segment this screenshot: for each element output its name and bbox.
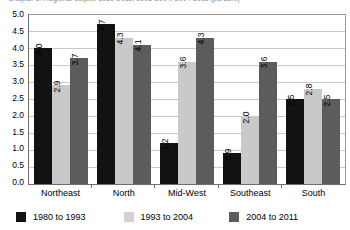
bar-group-northeast: 4.0 2.9 3.7: [29, 14, 92, 184]
legend-label: 1993 to 2004: [141, 212, 194, 222]
y-tick-label: 0.5: [12, 161, 24, 170]
bar-value-label: 2.9: [52, 80, 61, 92]
bar-group-south: 2.5 2.8 2.5: [282, 14, 345, 184]
chart-legend: 1980 to 1993 1993 to 2004 2004 to 2011: [0, 207, 350, 227]
bar-value-label: 3.7: [70, 53, 79, 65]
legend-item-1980-to-1993[interactable]: 1980 to 1993: [16, 212, 86, 222]
bar-value-label: 3.6: [179, 57, 188, 69]
bar-group-mid-west: 1.2 3.6 4.3: [155, 14, 218, 184]
y-tick-label: 3.5: [12, 60, 24, 69]
bar-chart: Chapter 2. Regional output: 1980-2011, 1…: [0, 0, 350, 230]
y-tick-label: 4.5: [12, 27, 24, 36]
bar[interactable]: 4.1: [133, 45, 151, 184]
x-axis-label-north: North: [92, 188, 155, 198]
y-tick-label: 0.0: [12, 178, 24, 187]
bar-group-southeast: 0.9 2.0 3.6: [219, 14, 282, 184]
bar[interactable]: 2.5: [322, 99, 340, 184]
legend-label: 2004 to 2011: [246, 212, 298, 222]
bar-value-label: 3.6: [260, 57, 269, 69]
bar[interactable]: 4.0: [34, 48, 52, 184]
bar-value-label: 4.3: [197, 33, 206, 45]
bar-value-label: 2.5: [323, 94, 332, 106]
bar[interactable]: 0.9: [223, 153, 241, 184]
bar-groups: 4.0 2.9 3.7 4.7 4.3 4.1: [29, 14, 345, 184]
x-axis-label-mid-west: Mid-West: [155, 188, 218, 198]
y-tick-label: 2.0: [12, 111, 24, 120]
y-tick-label: 4.0: [12, 44, 24, 53]
legend-swatch-icon: [16, 212, 26, 222]
bar-value-label: 2.5: [287, 94, 296, 106]
bar-value-label: 4.3: [115, 33, 124, 45]
bar[interactable]: 2.5: [286, 99, 304, 184]
legend-swatch-icon: [229, 212, 239, 222]
x-axis-labels: Northeast North Mid-West Southeast South: [29, 188, 345, 198]
y-tick-label: 3.0: [12, 77, 24, 86]
bar[interactable]: 3.6: [178, 62, 196, 184]
bar[interactable]: 2.8: [304, 89, 322, 184]
y-tick-label: 2.5: [12, 94, 24, 103]
x-axis-label-southeast: Southeast: [219, 188, 282, 198]
legend-label: 1980 to 1993: [33, 212, 86, 222]
legend-item-2004-to-2011[interactable]: 2004 to 2011: [229, 212, 298, 222]
legend-item-1993-to-2004[interactable]: 1993 to 2004: [124, 212, 194, 222]
bar[interactable]: 4.7: [97, 24, 115, 184]
bar-value-label: 2.0: [242, 111, 251, 123]
bar[interactable]: 2.9: [52, 85, 70, 184]
y-axis: 5.0 4.5 4.0 3.5 3.0 2.5 2.0 1.5 1.0 0.5 …: [0, 14, 26, 185]
bar-value-label: 4.1: [133, 40, 142, 52]
x-axis-label-south: South: [282, 188, 345, 198]
bar-value-label: 2.8: [305, 84, 314, 96]
bar[interactable]: 2.0: [241, 116, 259, 184]
chart-title: Chapter 2. Regional output: 1980-2011, 1…: [8, 0, 348, 4]
y-tick-label: 1.5: [12, 128, 24, 137]
legend-swatch-icon: [124, 212, 134, 222]
bar-value-label: 1.2: [161, 138, 170, 150]
bar-value-label: 0.9: [224, 148, 233, 160]
bar-group-north: 4.7 4.3 4.1: [92, 14, 155, 184]
bar-value-label: 4.7: [97, 19, 106, 31]
bar[interactable]: 1.2: [160, 143, 178, 184]
bar[interactable]: 4.3: [115, 38, 133, 184]
y-tick-label: 1.0: [12, 144, 24, 153]
bar[interactable]: 3.6: [259, 62, 277, 184]
x-axis-label-northeast: Northeast: [29, 188, 92, 198]
bar[interactable]: 3.7: [70, 58, 88, 184]
bar-value-label: 4.0: [34, 43, 43, 55]
bar[interactable]: 4.3: [196, 38, 214, 184]
y-tick-label: 5.0: [12, 10, 24, 19]
